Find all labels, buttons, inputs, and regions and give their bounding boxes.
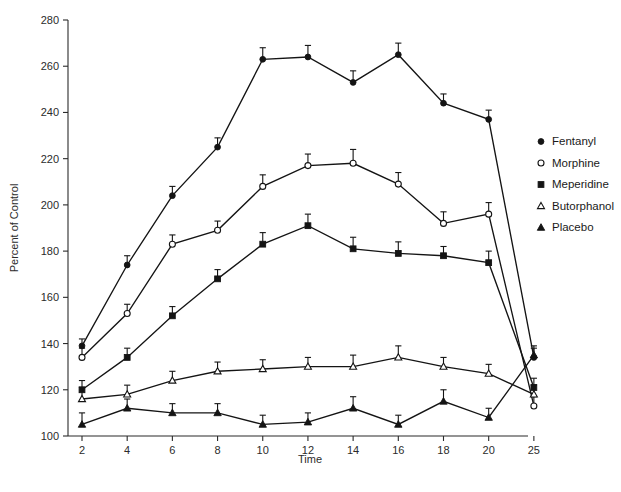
y-tick-label: 140	[41, 338, 59, 350]
data-point-marker	[538, 182, 544, 188]
data-point-marker	[395, 52, 401, 58]
chart-figure: 100120140160180200220240260280 246810121…	[0, 0, 621, 492]
y-tick-label: 120	[41, 384, 59, 396]
x-tick-label: 14	[347, 444, 359, 456]
line-chart: 100120140160180200220240260280 246810121…	[0, 0, 621, 492]
data-point-marker	[260, 241, 266, 247]
data-point-marker	[215, 227, 221, 233]
data-point-marker	[350, 160, 356, 166]
data-point-marker	[395, 181, 401, 187]
y-axis-title: Percent of Control	[8, 184, 20, 273]
y-tick-label: 160	[41, 291, 59, 303]
legend-item-label: Meperidine	[552, 178, 609, 190]
data-point-marker	[441, 253, 447, 259]
data-point-marker	[538, 139, 544, 145]
data-point-marker	[169, 193, 175, 199]
x-tick-label: 6	[169, 444, 175, 456]
data-point-marker	[486, 260, 492, 266]
x-tick-label: 2	[79, 444, 85, 456]
data-point-marker	[305, 163, 311, 169]
data-point-marker	[538, 160, 544, 166]
data-point-marker	[215, 144, 221, 150]
y-tick-label: 240	[41, 106, 59, 118]
x-tick-label: 8	[214, 444, 220, 456]
chart-background	[0, 0, 621, 492]
x-tick-label: 4	[124, 444, 130, 456]
y-tick-label: 100	[41, 430, 59, 442]
data-point-marker	[486, 116, 492, 122]
data-point-marker	[305, 54, 311, 60]
x-tick-label: 10	[257, 444, 269, 456]
y-tick-label: 200	[41, 199, 59, 211]
data-point-marker	[260, 56, 266, 62]
data-point-marker	[531, 403, 537, 409]
data-point-marker	[79, 354, 85, 360]
y-tick-label: 220	[41, 153, 59, 165]
y-tick-label: 260	[41, 60, 59, 72]
x-axis-title: Time	[298, 453, 322, 465]
data-point-marker	[350, 246, 356, 252]
data-point-marker	[215, 276, 221, 282]
data-point-marker	[124, 355, 130, 361]
data-point-marker	[260, 183, 266, 189]
legend-item-label: Fentanyl	[552, 135, 596, 147]
y-tick-label: 180	[41, 245, 59, 257]
data-point-marker	[440, 220, 446, 226]
x-tick-label: 20	[483, 444, 495, 456]
data-point-marker	[305, 223, 311, 229]
x-tick-label: 16	[392, 444, 404, 456]
data-point-marker	[486, 211, 492, 217]
y-tick-label: 280	[41, 14, 59, 26]
legend-item-label: Butorphanol	[552, 200, 614, 212]
data-point-marker	[124, 311, 130, 317]
data-point-marker	[124, 262, 130, 268]
data-point-marker	[350, 80, 356, 86]
data-point-marker	[169, 313, 175, 319]
x-tick-label: 18	[437, 444, 449, 456]
data-point-marker	[395, 251, 401, 257]
data-point-marker	[441, 100, 447, 106]
legend-item-label: Placebo	[552, 221, 594, 233]
data-point-marker	[169, 241, 175, 247]
x-tick-label: 25	[528, 444, 540, 456]
legend-item-label: Morphine	[552, 157, 600, 169]
